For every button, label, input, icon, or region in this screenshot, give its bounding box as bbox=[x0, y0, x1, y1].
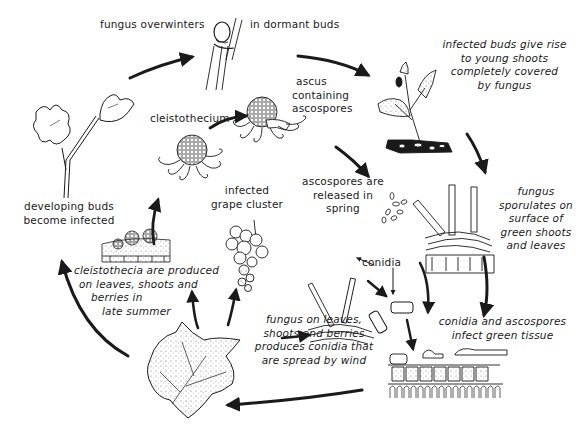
label-infected-grape-cluster: infected grape cluster bbox=[208, 184, 286, 211]
label-line: late summer bbox=[74, 305, 219, 319]
label-line: by fungus bbox=[432, 79, 577, 93]
label-infected-buds: infected buds give rise to young shoots … bbox=[432, 38, 577, 92]
label-line: released in bbox=[300, 189, 386, 203]
arrow-leaf-to-grape bbox=[228, 290, 236, 325]
label-in-dormant-buds: in dormant buds bbox=[250, 18, 339, 32]
label-conidia: conidia bbox=[362, 256, 401, 270]
label-cleistothecia-produced: cleistothecia are produced on leaves, sh… bbox=[74, 264, 219, 318]
label-line: infected bbox=[208, 184, 286, 198]
arrow-to-leaf bbox=[228, 390, 362, 405]
label-line: and leaves bbox=[495, 239, 577, 253]
label-line: berries in bbox=[74, 291, 219, 305]
arrow-ascospores-to-tissue bbox=[420, 263, 428, 312]
label-line: shoots and berries bbox=[248, 327, 380, 341]
disease-cycle-diagram: fungus overwinters in dormant buds infec… bbox=[0, 0, 577, 432]
arrow-to-dormant-bud bbox=[130, 57, 192, 78]
cleistothecium-drawing bbox=[159, 135, 223, 180]
label-line: grape cluster bbox=[208, 198, 286, 212]
label-fungus-produces-conidia: fungus on leaves, shoots and berries pro… bbox=[248, 313, 380, 367]
grape-cluster-drawing bbox=[226, 220, 268, 292]
label-line: on leaves, shoots and bbox=[74, 278, 219, 292]
label-line: are spread by wind bbox=[248, 354, 380, 368]
label-line: fungus on leaves, bbox=[248, 313, 380, 327]
label-line: cleistothecia are produced bbox=[74, 264, 219, 278]
label-line: containing bbox=[292, 89, 353, 103]
label-line: produces conidia that bbox=[248, 340, 380, 354]
arrow-to-conidia-spores bbox=[368, 281, 386, 296]
cleistothecia-on-tissue bbox=[102, 229, 170, 262]
label-cleistothecium: cleistothecium bbox=[150, 112, 230, 126]
label-line: become infected bbox=[14, 214, 124, 228]
label-line: surface of bbox=[495, 212, 577, 226]
label-fungus-overwinters: fungus overwinters bbox=[100, 18, 205, 32]
label-line: green shoots bbox=[495, 226, 577, 240]
label-line: ascospores bbox=[292, 102, 353, 116]
label-line: infected buds give rise bbox=[432, 38, 577, 52]
label-line: completely covered bbox=[432, 65, 577, 79]
label-line: developing buds bbox=[14, 200, 124, 214]
label-line: spring bbox=[300, 202, 386, 216]
developing-shoot-drawing bbox=[33, 95, 134, 198]
label-line: ascus bbox=[292, 75, 353, 89]
label-line: sporulates on bbox=[495, 199, 577, 213]
arrow-to-infected-shoot bbox=[298, 56, 368, 75]
infected-leaf-tissue bbox=[388, 349, 507, 398]
label-fungus-sporulates: fungus sporulates on surface of green sh… bbox=[495, 185, 577, 253]
arrow-to-sporulation bbox=[467, 134, 485, 172]
label-line: fungus bbox=[495, 185, 577, 199]
label-line: infect green tissue bbox=[430, 329, 575, 343]
label-ascus-containing-ascospores: ascus containing ascospores bbox=[292, 75, 353, 116]
label-line: ascospores are bbox=[300, 175, 386, 189]
arrow-to-ascospores bbox=[336, 147, 368, 176]
sporulating-hyphae bbox=[413, 185, 494, 273]
label-line: to young shoots bbox=[432, 52, 577, 66]
infected-grape-leaf-drawing bbox=[147, 322, 240, 418]
label-ascospores-released: ascospores are released in spring bbox=[300, 175, 386, 216]
label-developing-buds: developing buds become infected bbox=[14, 200, 124, 227]
label-conidia-ascospores-infect: conidia and ascospores infect green tiss… bbox=[430, 315, 575, 342]
dormant-bud-cane bbox=[206, 18, 242, 90]
arrow-to-infect bbox=[484, 257, 487, 315]
arrow-conidia-to-tissue bbox=[407, 320, 413, 349]
label-line: conidia and ascospores bbox=[430, 315, 575, 329]
